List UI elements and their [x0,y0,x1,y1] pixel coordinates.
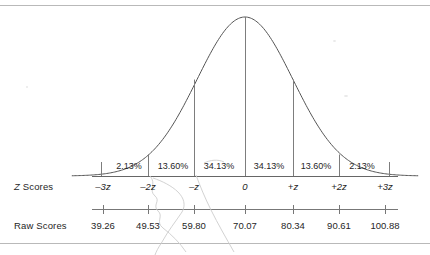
band-percentage-label-0: 2.13% [116,161,142,171]
raw-score-tick-label-0: 39.26 [91,220,115,231]
z-score-tick-label-0: –3z [95,181,110,192]
z-scores-label-rest: Scores [20,181,53,192]
raw-score-tick-label-6: 100.88 [370,220,399,231]
pencil-annotation-marks [150,160,234,255]
z-score-tick-label-5: +2z [331,181,347,192]
raw-score-tick-label-3: 70.07 [233,220,257,231]
band-percentage-label-4: 13.60% [301,161,332,171]
band-percentage-label-1: 13.60% [158,161,189,171]
raw-score-tick-label-1: 49.53 [136,220,160,231]
raw-scores-row-label: Raw Scores [14,220,67,231]
z-score-tick-label-3: 0 [242,181,247,192]
z-scores-row-label: Z Scores [14,181,53,192]
distribution-plot [0,0,430,255]
raw-score-tick-label-4: 80.34 [281,220,305,231]
band-divider-lines [102,17,390,176]
band-percentage-label-3: 34.13% [254,161,285,171]
z-score-tick-label-1: –2z [140,181,155,192]
normal-distribution-figure: Z Scores Raw Scores 2.13%13.60%34.13%34.… [0,0,430,255]
band-percentage-label-2: 34.13% [204,161,235,171]
z-score-tick-label-6: +3z [377,181,393,192]
band-percentage-label-5: 2.13% [349,161,375,171]
z-score-tick-label-4: +z [288,181,298,192]
raw-score-tick-label-2: 59.80 [182,220,206,231]
raw-score-tick-label-5: 90.61 [327,220,351,231]
z-score-tick-label-2: –z [189,181,199,192]
bell-curve-path [72,17,418,176]
